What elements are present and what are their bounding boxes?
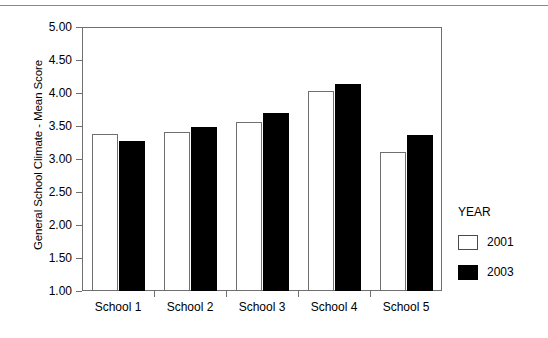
x-tick-mark [298,291,299,297]
x-axis-ticks: School 1School 2School 3School 4School 5 [82,291,442,331]
x-tick-mark [226,291,227,297]
x-tick-label-school-5: School 5 [383,300,430,314]
bar-school-5-2001 [380,152,406,291]
bar-group [308,27,361,291]
y-axis-ticks: 5.004.504.003.503.002.502.001.501.00 [0,0,82,338]
x-tick-label-school-3: School 3 [239,300,286,314]
bar-school-4-2001 [308,91,334,291]
x-tick-label-school-4: School 4 [311,300,358,314]
bar-group [236,27,289,291]
legend: YEAR 2001 2003 [458,205,544,291]
legend-title: YEAR [458,205,544,219]
x-tick-label-school-1: School 1 [95,300,142,314]
x-tick-mark [154,291,155,297]
y-tick-label: 1.50 [49,251,72,265]
legend-label-2001: 2001 [487,235,514,249]
bar-school-4-2003 [335,84,361,291]
bar-group [164,27,217,291]
bar-chart-figure: General School Climate - Mean Score 5.00… [0,0,548,338]
bar-school-1-2003 [119,141,145,291]
y-tick-label: 3.00 [49,152,72,166]
bar-school-2-2003 [191,127,217,291]
bar-school-5-2003 [407,135,433,291]
y-tick-label: 5.00 [49,20,72,34]
bar-group [92,27,145,291]
legend-swatch-2003 [458,265,478,280]
bar-school-1-2001 [92,134,118,291]
bar-school-2-2001 [164,132,190,291]
bar-school-3-2001 [236,122,262,291]
x-tick-label-school-2: School 2 [167,300,214,314]
y-tick-label: 4.50 [49,53,72,67]
legend-label-2003: 2003 [487,265,514,279]
legend-item-2001: 2001 [458,231,544,253]
bar-school-3-2003 [263,113,289,291]
top-divider-rule [0,5,548,6]
y-tick-label: 1.00 [49,284,72,298]
legend-item-2003: 2003 [458,261,544,283]
bars-layer [82,27,442,291]
legend-swatch-2001 [458,235,478,250]
y-tick-label: 4.00 [49,86,72,100]
bar-group [380,27,433,291]
y-tick-label: 3.50 [49,119,72,133]
y-tick-label: 2.50 [49,185,72,199]
x-tick-mark [370,291,371,297]
y-tick-label: 2.00 [49,218,72,232]
